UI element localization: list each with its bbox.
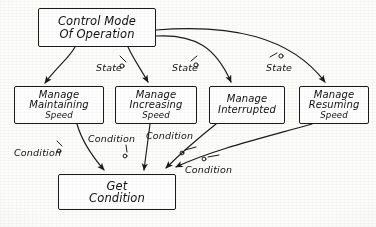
node-label-line: Control Mode [58, 15, 136, 27]
node-label-line: Speed [45, 111, 72, 120]
edge-resuming-to-get [176, 124, 312, 167]
node-manage-increasing-speed[interactable]: Manage Increasing Speed [115, 86, 197, 124]
edge-label-condition-2: Condition [88, 134, 135, 144]
node-control-mode[interactable]: Control Mode Of Operation [38, 8, 156, 47]
edge-maintaining-to-get [77, 124, 104, 170]
edge-label-condition-4: Condition [185, 165, 232, 175]
node-label-line: Interrupted [218, 105, 276, 116]
node-manage-interrupted[interactable]: Manage Interrupted [209, 86, 285, 124]
node-manage-maintaining-speed[interactable]: Manage Maintaining Speed [14, 86, 104, 124]
edge-control-to-increasing [128, 47, 148, 82]
edge-label-state-1: State [96, 63, 122, 73]
node-label-line: Of Operation [59, 28, 134, 40]
node-get-condition[interactable]: Get Condition [58, 174, 176, 210]
edge-control-to-maintaining [45, 47, 75, 83]
diagram-canvas: Control Mode Of Operation Manage Maintai… [0, 0, 376, 227]
edge-label-condition-3: Condition [146, 131, 193, 141]
node-label-line: Speed [320, 111, 347, 120]
node-label-line: Condition [89, 192, 145, 204]
node-label-line: Speed [142, 111, 169, 120]
edge-control-to-resuming [156, 29, 325, 82]
node-manage-resuming-speed[interactable]: Manage Resuming Speed [299, 86, 369, 124]
edge-label-state-3: State [266, 63, 292, 73]
edge-label-state-2: State [172, 63, 198, 73]
edge-label-condition-1: Condition [14, 148, 61, 158]
